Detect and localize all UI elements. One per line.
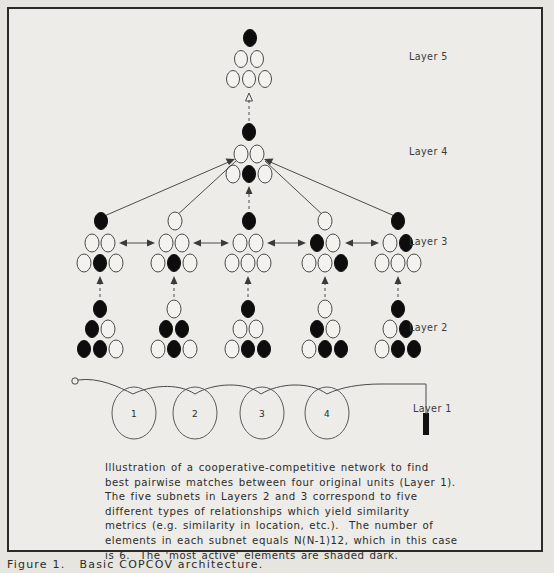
node-filled — [242, 301, 255, 318]
node-filled — [176, 321, 189, 338]
node-filled — [168, 341, 181, 358]
layer-label-1: Layer 1 — [413, 403, 452, 414]
layer-2-subnet-1 — [78, 301, 124, 359]
layer-3-subnet-2 — [151, 212, 197, 272]
node-open — [383, 234, 397, 252]
figure-number-caption: Figure 1. Basic COPCOV architecture. — [7, 558, 547, 573]
node-open — [257, 254, 271, 272]
node-filled — [311, 321, 324, 338]
node-open — [326, 320, 340, 338]
node-open — [227, 71, 240, 88]
layer-2-subnet-4 — [302, 300, 348, 358]
node-filled — [94, 301, 107, 318]
caption-line: elements in each subnet equals N(N-1)12,… — [105, 534, 525, 549]
network-diagram: Layer 5 Layer 4 — [9, 9, 545, 449]
node-open — [225, 254, 239, 272]
node-open — [383, 320, 397, 338]
node-open — [326, 234, 340, 252]
node-open — [151, 254, 165, 272]
node-filled — [243, 124, 256, 141]
node-open — [318, 300, 332, 318]
caption-line: Illustration of a cooperative-competitiv… — [105, 461, 525, 476]
node-filled — [392, 301, 405, 318]
node-open — [259, 71, 272, 88]
node-open — [101, 320, 115, 338]
layer-2-subnet-2 — [151, 300, 197, 358]
node-filled — [94, 341, 107, 358]
node-open — [391, 254, 405, 272]
node-open — [151, 340, 165, 358]
node-filled — [168, 255, 181, 272]
node-open — [109, 254, 123, 272]
node-open — [407, 254, 421, 272]
node-open — [159, 234, 173, 252]
node-filled — [243, 166, 256, 183]
node-open — [250, 145, 264, 163]
node-filled — [160, 321, 173, 338]
node-open — [249, 320, 263, 338]
figure-page: Layer 5 Layer 4 — [0, 0, 554, 573]
layer-label-5: Layer 5 — [409, 51, 448, 62]
node-open — [258, 165, 272, 183]
node-open — [183, 254, 197, 272]
node-open — [375, 340, 389, 358]
connector-layer4-to-layer5 — [246, 93, 253, 121]
layer1-unit-label: 1 — [131, 409, 137, 419]
node-open — [235, 51, 248, 68]
layer1-unit-label: 4 — [324, 409, 330, 419]
node-open — [318, 212, 332, 230]
node-open — [251, 51, 264, 68]
node-open — [302, 254, 316, 272]
node-open — [167, 300, 181, 318]
node-filled — [392, 213, 405, 230]
layer-5-group — [227, 30, 272, 88]
node-filled — [243, 213, 256, 230]
layer-3-subnet-4 — [302, 212, 348, 272]
contour-terminal-block — [423, 413, 429, 435]
node-filled — [392, 341, 405, 358]
layer-label-4: Layer 4 — [409, 146, 448, 157]
layer-3-subnet-1 — [77, 213, 123, 273]
node-filled — [94, 255, 107, 272]
contour-start-marker — [72, 378, 78, 384]
node-open — [233, 234, 247, 252]
node-filled — [242, 341, 255, 358]
node-filled — [78, 341, 91, 358]
node-open — [249, 234, 263, 252]
node-open — [85, 234, 99, 252]
connector-layer3-to-layer4-center — [246, 186, 253, 209]
node-open — [101, 234, 115, 252]
node-open — [168, 212, 182, 230]
node-open — [318, 254, 332, 272]
node-filled — [408, 341, 421, 358]
caption-line: different types of relationships which y… — [105, 505, 525, 520]
node-open — [225, 340, 239, 358]
figure-caption: Illustration of a cooperative-competitiv… — [105, 461, 525, 563]
contour-path — [78, 379, 426, 394]
layer-4-group — [226, 124, 272, 184]
node-filled — [86, 321, 99, 338]
layer-label-3: Layer 3 — [409, 236, 448, 247]
node-open — [233, 320, 247, 338]
caption-line: The five subnets in Layers 2 and 3 corre… — [105, 490, 525, 505]
layer1-unit-label: 2 — [192, 409, 198, 419]
connector-layer2-to-layer3 — [97, 276, 402, 297]
node-filled — [335, 255, 348, 272]
node-filled — [95, 213, 108, 230]
figure-frame: Layer 5 Layer 4 — [7, 7, 543, 552]
node-filled — [319, 341, 332, 358]
node-open — [183, 340, 197, 358]
layer-label-2: Layer 2 — [409, 322, 448, 333]
layer-2-subnet-3 — [225, 301, 271, 359]
node-open — [77, 254, 91, 272]
node-open — [375, 254, 389, 272]
node-open — [241, 254, 255, 272]
node-open — [302, 340, 316, 358]
node-filled — [311, 235, 324, 252]
node-open — [243, 71, 256, 88]
caption-line: best pairwise matches between four origi… — [105, 476, 525, 491]
node-filled — [244, 30, 257, 47]
node-open — [109, 340, 123, 358]
node-filled — [335, 341, 348, 358]
caption-line: metrics (e.g. similarity in location, et… — [105, 519, 525, 534]
